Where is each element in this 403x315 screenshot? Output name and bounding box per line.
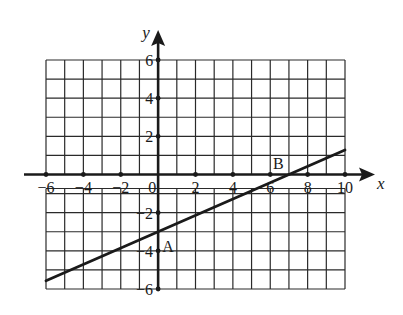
x-tick-labels: −6−4−20246810 xyxy=(37,179,353,196)
y-tick-label: −4 xyxy=(136,243,153,260)
y-tick-mark xyxy=(156,210,161,215)
point-label-b: B xyxy=(273,155,284,172)
y-tick-mark xyxy=(156,96,161,101)
x-tick-label: 0 xyxy=(148,179,156,196)
x-tick-label: 10 xyxy=(337,179,353,196)
x-tick-mark xyxy=(118,172,123,177)
y-tick-mark xyxy=(156,58,161,63)
x-tick-mark xyxy=(230,172,235,177)
y-tick-label: 6 xyxy=(145,52,153,69)
y-tick-label: 2 xyxy=(145,128,153,145)
coordinate-graph: −6−4−20246810 642−2−4−6 AB x y xyxy=(0,0,403,315)
point-label-a: A xyxy=(162,238,174,255)
y-tick-label: −2 xyxy=(136,205,153,222)
y-tick-label: −6 xyxy=(136,281,153,298)
x-tick-label: −6 xyxy=(37,179,54,196)
x-axis-label: x xyxy=(376,174,385,193)
x-tick-label: −2 xyxy=(112,179,129,196)
x-tick-label: 2 xyxy=(192,179,200,196)
y-tick-mark xyxy=(156,287,161,292)
y-tick-label: 4 xyxy=(145,90,153,107)
x-tick-mark xyxy=(44,172,49,177)
x-tick-mark xyxy=(305,172,310,177)
x-tick-label: 8 xyxy=(304,179,312,196)
x-tick-mark xyxy=(268,172,273,177)
x-tick-mark xyxy=(193,172,198,177)
y-axis-label: y xyxy=(140,23,150,42)
x-tick-label: −4 xyxy=(75,179,92,196)
y-tick-mark xyxy=(156,134,161,139)
x-tick-label: 4 xyxy=(229,179,237,196)
x-tick-mark xyxy=(343,172,348,177)
y-tick-mark xyxy=(156,248,161,253)
x-tick-mark xyxy=(81,172,86,177)
